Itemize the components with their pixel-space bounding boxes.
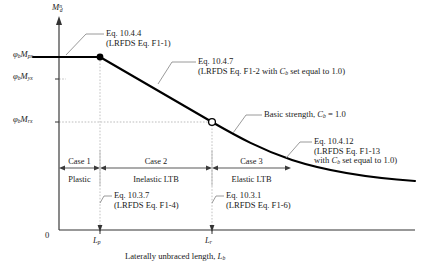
annotation-lp-equation: Eq. 10.3.7 (LRFDS Eq. F1-4) [114,191,179,210]
leader-plateau [66,34,104,55]
annotation-basic-strength: Basic strength, Cb = 1.0 [264,110,346,120]
leader-inelastic [158,62,196,84]
y-tick-label-myx: φbMyx [13,72,33,82]
marker-lr-open [209,119,216,126]
leader-lp-eq [100,196,112,203]
annotation-elastic: Eq. 10.4.12 (LRFDS Eq. F1-13 with Cb set… [314,137,397,166]
x-tick-label-lp: Lp [93,236,101,246]
annotation-plateau: Eq. 10.4.4 (LRFDS Eq. F1-1) [106,29,171,48]
diagram-svg [0,0,425,270]
case-2-label: Case 2 [100,157,212,166]
case-3-label: Case 3 [212,157,291,166]
y-tick-label-mrx: φbMrx [13,115,32,125]
figure-canvas: Mnd φbMpx φbMyx φbMrx 0 Lp Lr Laterally … [0,0,425,270]
case-1-label: Case 1 [59,157,100,166]
annotation-plateau-line2: (LRFDS Eq. F1-1) [106,39,171,49]
leader-elastic [286,142,312,158]
case-1-behavior: Plastic [59,175,100,184]
leader-lr-eq [212,196,224,203]
annotation-inelastic: Eq. 10.4.7 (LRFDS Eq. F1-2 with Cb set e… [198,57,345,76]
annotation-lr-line2: (LRFDS Eq. F1-6) [226,201,291,211]
x-axis-title: Laterally unbraced length, Lb [125,252,225,262]
y-axis-arrowhead [56,16,62,25]
origin-label: 0 [45,231,49,241]
curve-inelastic-ltb [100,57,212,122]
marker-lp-filled [97,54,104,61]
annotation-lp-line2: (LRFDS Eq. F1-4) [114,201,179,211]
case-2-behavior: Inelastic LTB [100,175,212,184]
x-tick-label-lr: Lr [205,236,212,246]
case-3-behavior: Elastic LTB [212,175,291,184]
xtick-lp-arrow [98,225,103,232]
leader-basic-strength [233,115,262,133]
guide-lines [59,57,212,122]
y-tick-label-mpx: φbMpx [13,50,33,60]
annotation-inelastic-line2: (LRFDS Eq. F1-2 with Cb set equal to 1.0… [198,67,345,77]
annotation-elastic-line3: with Cb set equal to 1.0) [314,156,397,166]
x-tick-marks [100,230,212,234]
xtick-lr-arrow [210,225,215,232]
y-tick-marks [55,57,59,122]
y-axis-label: Mnd [52,3,62,13]
annotation-lr-equation: Eq. 10.3.1 (LRFDS Eq. F1-6) [226,191,291,210]
